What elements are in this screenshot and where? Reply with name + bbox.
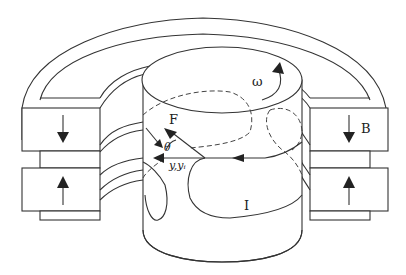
omega-label: ω <box>252 75 263 88</box>
current-label: I <box>244 199 249 212</box>
coords-label: y,yᵢ <box>169 160 186 171</box>
force-label: F <box>169 113 178 126</box>
left-magnets <box>22 108 100 220</box>
theta-label: θ <box>164 142 171 153</box>
right-magnets <box>310 108 388 220</box>
field-label: B <box>361 122 371 135</box>
lower-left-magnet <box>22 168 100 211</box>
diagram-canvas <box>0 0 406 275</box>
upper-left-magnet <box>22 108 100 151</box>
